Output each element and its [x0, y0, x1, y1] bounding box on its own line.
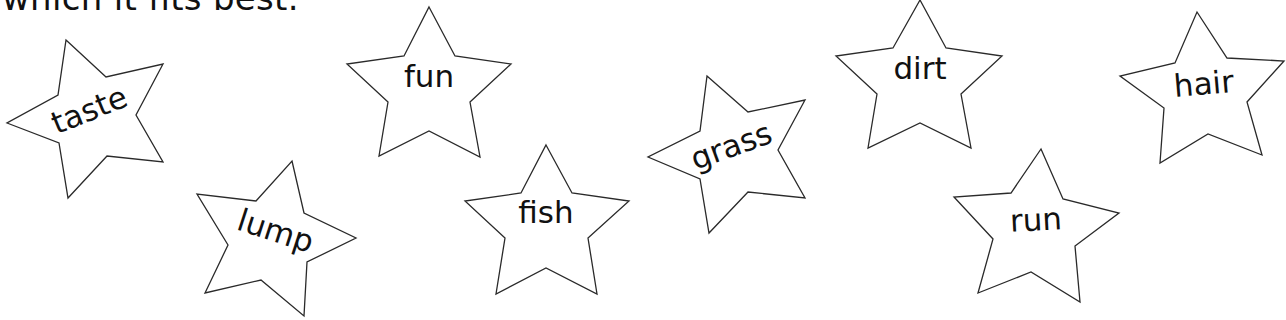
- star-word-label: fish: [518, 194, 573, 230]
- star-hair[interactable]: hair: [1120, 12, 1284, 163]
- star-word-label: dirt: [893, 50, 946, 86]
- star-word-label: run: [1009, 200, 1063, 239]
- star-word-label: hair: [1172, 63, 1235, 104]
- star-taste[interactable]: taste: [7, 40, 163, 198]
- star-lump[interactable]: lump: [197, 161, 356, 316]
- star-dirt[interactable]: dirt: [836, 0, 1002, 148]
- word-stars: taste lump fun fish grass dirt hair run: [0, 0, 1286, 320]
- star-fun[interactable]: fun: [347, 7, 511, 157]
- star-grass[interactable]: grass: [648, 76, 805, 233]
- star-run[interactable]: run: [954, 149, 1119, 302]
- star-word-label: fun: [404, 58, 454, 94]
- star-fish[interactable]: fish: [465, 145, 629, 294]
